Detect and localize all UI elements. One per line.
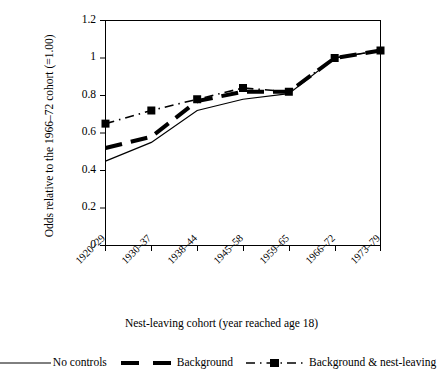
data-point-marker xyxy=(377,47,385,55)
data-point-marker xyxy=(331,54,339,62)
plot-frame xyxy=(106,21,381,246)
data-point-marker xyxy=(193,95,201,103)
thick-dashed-line-swatch xyxy=(119,356,175,370)
chart-legend: No controls Background Background & nest… xyxy=(0,352,443,374)
legend-label-background-nest-leaving: Background & nest-leaving xyxy=(309,357,443,369)
plot-border xyxy=(106,21,381,246)
data-point-marker xyxy=(147,107,155,115)
y-axis-ticks xyxy=(100,21,106,246)
legend-label-no-controls: No controls xyxy=(53,357,119,369)
data-series-layer xyxy=(102,47,385,162)
legend-entry-background: Background xyxy=(119,356,245,370)
chart-figure: Odds relative to the 1966–72 cohort (=1.… xyxy=(0,0,443,382)
thin-solid-line-swatch xyxy=(0,356,51,370)
data-point-marker xyxy=(102,120,110,128)
legend-entry-no-controls: No controls xyxy=(0,356,119,370)
x-axis-title: Nest-leaving cohort (year reached age 18… xyxy=(0,318,443,330)
data-point-marker xyxy=(239,84,247,92)
legend-entry-background-nest-leaving: Background & nest-leaving xyxy=(245,356,443,370)
data-point-marker xyxy=(285,88,293,96)
legend-label-background: Background xyxy=(177,357,245,369)
series-line-0 xyxy=(106,51,381,162)
dash-dot-square-marker-swatch xyxy=(245,356,307,370)
